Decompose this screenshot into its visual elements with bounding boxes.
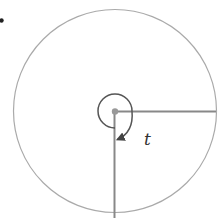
center-dot <box>112 108 118 114</box>
angle-diagram: t <box>0 0 221 218</box>
angle-label: t <box>144 129 151 149</box>
bullet-dot <box>0 18 4 22</box>
